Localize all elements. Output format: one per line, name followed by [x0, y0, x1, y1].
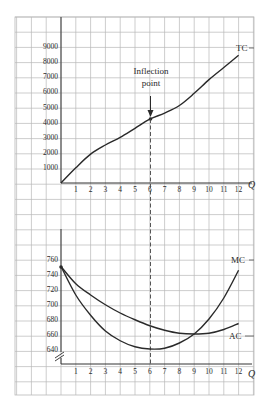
ac-label: AC [229, 331, 242, 341]
x-tick-label: 7 [163, 185, 167, 194]
inflection-label-line2: point [142, 78, 161, 88]
x-tick-label: 3 [104, 185, 108, 194]
marginal-average-cost-chart: 640660680700720740760 123456789101112 MC… [47, 229, 256, 379]
x-tick-label: 5 [133, 185, 137, 194]
y-tick-label: 760 [47, 255, 59, 264]
inflection-label-line1: Inflection [134, 66, 169, 76]
cost-curves-figure: 100020003000400050006000700080009000 123… [0, 0, 271, 411]
mc-label: MC [231, 255, 245, 265]
y-tick-label: 640 [47, 345, 59, 354]
x-tick-label: 9 [192, 367, 196, 376]
top-x-tick-labels: 123456789101112 [74, 185, 243, 194]
x-tick-label: 12 [235, 367, 243, 376]
y-tick-label: 8000 [43, 57, 58, 66]
y-tick-label: 700 [47, 300, 59, 309]
x-tick-label: 10 [205, 185, 213, 194]
y-tick-label: 5000 [43, 103, 58, 112]
x-tick-label: 2 [89, 367, 93, 376]
y-tick-label: 6000 [43, 87, 58, 96]
x-tick-label: 10 [205, 367, 213, 376]
bottom-q-axis-label: Q [248, 368, 256, 379]
y-tick-label: 2000 [43, 148, 58, 157]
tc-label: TC [236, 43, 248, 53]
x-tick-label: 1 [74, 367, 78, 376]
y-tick-label: 3000 [43, 133, 58, 142]
bottom-axes [61, 229, 252, 364]
x-tick-label: 1 [74, 185, 78, 194]
y-tick-label: 660 [47, 330, 59, 339]
x-tick-label: 8 [178, 185, 182, 194]
y-tick-label: 4000 [43, 118, 58, 127]
x-tick-label: 4 [118, 185, 122, 194]
x-tick-label: 9 [192, 185, 196, 194]
x-tick-label: 3 [104, 367, 108, 376]
x-tick-label: 11 [220, 367, 227, 376]
y-tick-label: 720 [47, 285, 59, 294]
x-tick-label: 6 [148, 367, 152, 376]
x-tick-label: 4 [118, 367, 122, 376]
x-tick-label: 5 [133, 367, 137, 376]
y-tick-label: 680 [47, 315, 59, 324]
x-tick-label: 11 [220, 185, 227, 194]
top-axes [61, 17, 252, 183]
inflection-arrow-icon [148, 96, 154, 117]
y-tick-label: 1000 [43, 163, 58, 172]
bottom-y-tick-labels: 640660680700720740760 [47, 255, 59, 354]
bottom-x-tick-labels: 123456789101112 [74, 367, 243, 376]
start-point-marker [59, 265, 63, 269]
x-tick-label: 2 [89, 185, 93, 194]
y-tick-label: 9000 [43, 42, 58, 51]
top-q-axis-label: Q [248, 179, 256, 190]
top-y-tick-labels: 100020003000400050006000700080009000 [43, 42, 58, 173]
x-tick-label: 12 [235, 185, 243, 194]
x-tick-label: 7 [163, 367, 167, 376]
x-tick-label: 6 [148, 185, 152, 194]
y-tick-label: 7000 [43, 72, 58, 81]
y-tick-label: 740 [47, 270, 59, 279]
x-tick-label: 8 [178, 367, 182, 376]
